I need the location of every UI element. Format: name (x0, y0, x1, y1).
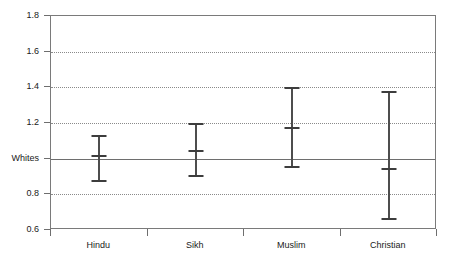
error-bar-lower-cap (92, 180, 107, 182)
error-bar-lower-cap (285, 166, 300, 168)
error-bar-upper-cap (381, 91, 396, 93)
x-axis-label-christian: Christian (370, 240, 406, 251)
error-bar-chart: 1.81.61.41.2Whites0.80.6 HinduSikhMuslim… (0, 0, 451, 261)
y-tick-label-0.8: 0.8 (26, 188, 39, 198)
y-tick-label-1.2: 1.2 (26, 117, 39, 127)
point-estimate-marker (381, 168, 396, 170)
point-estimate-marker (285, 127, 300, 129)
error-bar-upper-cap (188, 123, 203, 125)
error-bar-stem (98, 135, 100, 180)
error-bar-stem (388, 91, 390, 218)
error-bar-lower-cap (188, 175, 203, 177)
point-estimate-marker (188, 150, 203, 152)
plot-area (50, 15, 436, 229)
x-tick-4 (436, 229, 437, 236)
y-tick-label-1.4: 1.4 (26, 81, 39, 91)
x-tick-0 (50, 229, 51, 236)
gridline-1.6 (51, 52, 435, 53)
y-tick-label-Whites: Whites (11, 153, 39, 163)
x-tick-2 (243, 229, 244, 236)
reference-line-whites (51, 159, 435, 160)
x-axis-label-sikh: Sikh (186, 240, 204, 251)
point-estimate-marker (92, 155, 107, 157)
x-axis-label-muslim: Muslim (277, 240, 306, 251)
y-tick-label-1.8: 1.8 (26, 10, 39, 20)
error-bar-upper-cap (92, 135, 107, 137)
x-tick-3 (340, 229, 341, 236)
y-tick-label-1.6: 1.6 (26, 46, 39, 56)
gridline-1.4 (51, 87, 435, 88)
x-axis-label-hindu: Hindu (86, 240, 110, 251)
error-bar-upper-cap (285, 87, 300, 89)
x-tick-1 (147, 229, 148, 236)
y-tick-label-0.6: 0.6 (26, 224, 39, 234)
gridline-1.2 (51, 123, 435, 124)
error-bar-lower-cap (381, 218, 396, 220)
gridline-0.8 (51, 194, 435, 195)
